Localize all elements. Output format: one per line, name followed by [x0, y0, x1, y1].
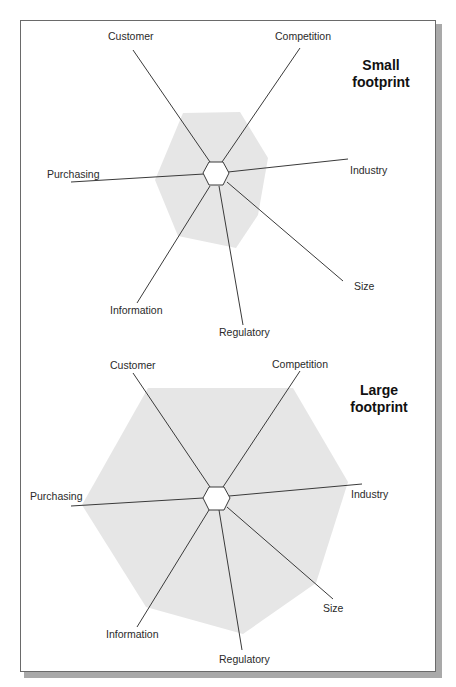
center-hexagon: [203, 162, 229, 185]
large-footprint-diagram: Customer Competition Industry Size Regul…: [30, 358, 408, 665]
label-competition: Competition: [275, 30, 331, 42]
label-size: Size: [323, 602, 344, 614]
title-large-line1: Large: [360, 382, 398, 398]
label-regulatory: Regulatory: [219, 653, 271, 665]
label-size: Size: [354, 280, 375, 292]
title-small-line1: Small: [362, 57, 399, 73]
label-customer: Customer: [108, 30, 154, 42]
axis-competition: [222, 48, 300, 162]
center-hexagon: [203, 487, 230, 510]
label-information: Information: [106, 628, 159, 640]
footprint-diagrams: Customer Competition Industry Size Regul…: [0, 0, 456, 687]
small-footprint-diagram: Customer Competition Industry Size Regul…: [47, 30, 410, 338]
label-regulatory: Regulatory: [219, 326, 271, 338]
label-industry: Industry: [350, 164, 388, 176]
label-purchasing: Purchasing: [30, 490, 83, 502]
label-purchasing: Purchasing: [47, 168, 100, 180]
label-industry: Industry: [351, 488, 389, 500]
label-competition: Competition: [272, 358, 328, 370]
large-footprint-area: [82, 388, 348, 634]
label-information: Information: [110, 304, 163, 316]
label-customer: Customer: [110, 359, 156, 371]
title-large-line2: footprint: [350, 399, 408, 415]
title-small-line2: footprint: [352, 74, 410, 90]
